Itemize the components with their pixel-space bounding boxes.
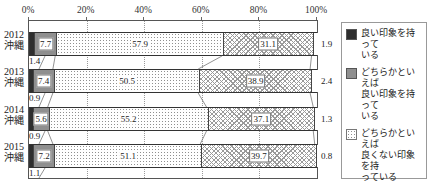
no-answer-value-label: 1.9	[321, 39, 332, 49]
bar-segment: 37.1	[208, 108, 315, 130]
axis-tick-label: 100%	[305, 5, 327, 15]
no-answer-value-label: 2.4	[321, 76, 332, 86]
bar-segment	[311, 70, 318, 92]
bar-row-2015: 7.251.139.7	[29, 144, 317, 168]
plot-area: 7.757.931.17.450.538.95.655.237.17.251.1…	[28, 20, 318, 179]
no-answer-value-label: 0.8	[321, 151, 332, 161]
segment-value-label: 7.2	[36, 150, 51, 163]
no-answer-value-label: 1.3	[321, 114, 332, 124]
segment-value-label: 38.9	[246, 75, 266, 88]
below-bar-value-label: 1.1	[29, 168, 40, 179]
row-label: 2013沖縄	[1, 66, 27, 88]
legend-label: どちらかといえば良い印象を持っている	[361, 67, 423, 122]
row-label: 2015沖縄	[1, 141, 27, 163]
segment-value-label: 51.1	[119, 151, 137, 162]
bar-segment: 7.2	[33, 145, 54, 167]
segment-value-label: 31.1	[258, 38, 278, 51]
axis-tick-label: 20%	[77, 5, 94, 15]
bar-segment: 51.1	[54, 145, 201, 167]
segment-value-label: 39.7	[249, 150, 269, 163]
segment-value-label: 55.2	[120, 114, 138, 125]
bar-segment: 38.9	[199, 70, 311, 92]
segment-value-label: 37.1	[251, 113, 271, 126]
bar-segment: 39.7	[201, 145, 315, 167]
row-label: 2012沖縄	[1, 29, 27, 51]
bar-segment: 50.5	[54, 70, 199, 92]
legend-item: 良い印象を持っている	[346, 28, 423, 61]
segment-value-label: 7.7	[38, 38, 53, 51]
row-label: 2014沖縄	[1, 104, 27, 126]
below-bar-value-label: 0.9	[29, 131, 40, 142]
segment-value-label: 57.9	[131, 39, 149, 50]
below-bar-value-label: 0.9	[29, 93, 40, 104]
stacked-bar-chart: 0%20%40%60%80%100% 7.757.931.17.450.538.…	[0, 0, 429, 188]
segment-value-label: 50.5	[118, 76, 136, 87]
legend-label: 良い印象を持っている	[361, 28, 423, 61]
legend: 良い印象を持っているどちらかといえば良い印象を持っているどちらかといえば良くない…	[341, 22, 427, 179]
bar-row-2013: 7.450.538.9	[29, 69, 317, 93]
legend-swatch	[346, 68, 357, 79]
legend-swatch	[346, 129, 357, 140]
bar-segment: 57.9	[56, 33, 223, 55]
axis-tick-label: 40%	[134, 5, 151, 15]
legend-label: どちらかといえば良くない印象を持っている	[361, 128, 423, 183]
bar-segment: 7.4	[33, 70, 54, 92]
axis-tick-label: 80%	[250, 5, 267, 15]
bar-segment: 55.2	[49, 108, 208, 130]
bar-row-2014: 5.655.237.1	[29, 107, 317, 131]
segment-value-label: 7.4	[36, 75, 51, 88]
bar-segment	[314, 108, 318, 130]
axis-tick-label: 0%	[22, 5, 35, 15]
bar-segment: 5.6	[33, 108, 49, 130]
legend-item: どちらかといえば良い印象を持っている	[346, 67, 423, 122]
segment-value-label: 5.6	[34, 113, 49, 126]
bar-segment	[313, 33, 318, 55]
legend-item: どちらかといえば良くない印象を持っている	[346, 128, 423, 183]
bar-segment	[316, 145, 318, 167]
legend-swatch	[346, 29, 357, 40]
bar-segment: 7.7	[34, 33, 56, 55]
bar-segment: 31.1	[223, 33, 313, 55]
below-bar-value-label: 1.4	[29, 56, 40, 67]
bar-row-2012: 7.757.931.1	[29, 32, 317, 56]
axis-tick-label: 60%	[192, 5, 209, 15]
